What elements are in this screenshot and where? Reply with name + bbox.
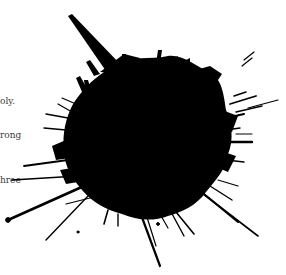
ink-splatter-image: oly. rong hree	[0, 0, 286, 275]
ink-splatter-icon	[0, 0, 286, 275]
